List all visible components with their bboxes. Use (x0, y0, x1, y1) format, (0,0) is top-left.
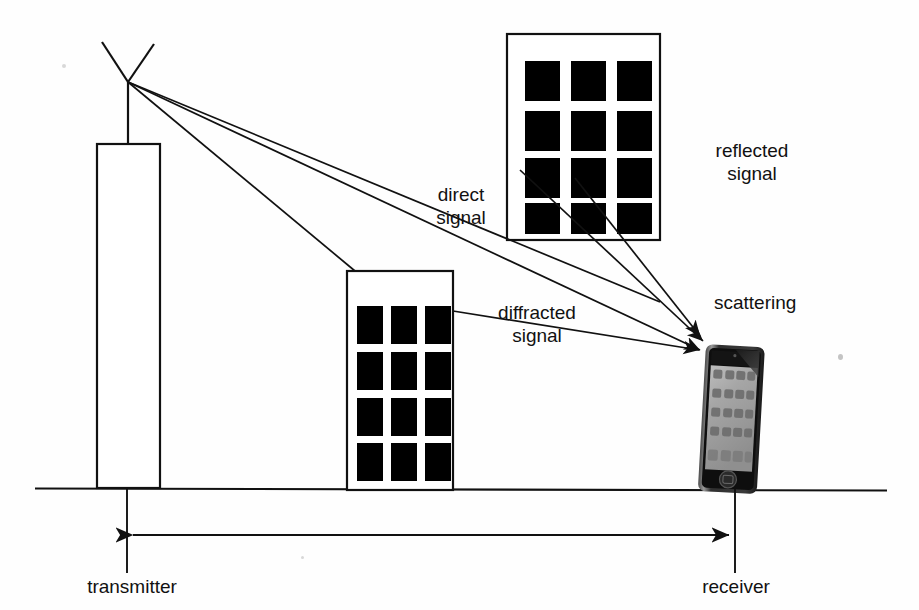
scan-speckle (62, 64, 66, 68)
transmitter-tower (97, 144, 160, 488)
scan-speckle (838, 354, 843, 360)
transmitter-label: transmitter (67, 575, 197, 598)
reflected-signal-label: reflected signal (686, 139, 818, 185)
diffracting-building (347, 271, 453, 490)
direct-signal-label: direct signal (406, 183, 516, 229)
receiver-label: receiver (676, 575, 796, 598)
diffracted-signal-label: diffracted signal (472, 301, 602, 347)
ray-transmitter-to-diffractor (128, 82, 355, 271)
propagation-diagram: direct signal reflected signal diffracte… (0, 0, 919, 610)
scan-speckle (301, 556, 304, 559)
reflecting-building (507, 34, 660, 240)
transmitter-antenna (102, 42, 154, 146)
reflecting-building-windows (525, 61, 652, 234)
receiver-phone (698, 344, 765, 494)
ground-line (35, 489, 887, 491)
distance-dimension (127, 489, 735, 573)
scattering-label: scattering (714, 291, 844, 314)
